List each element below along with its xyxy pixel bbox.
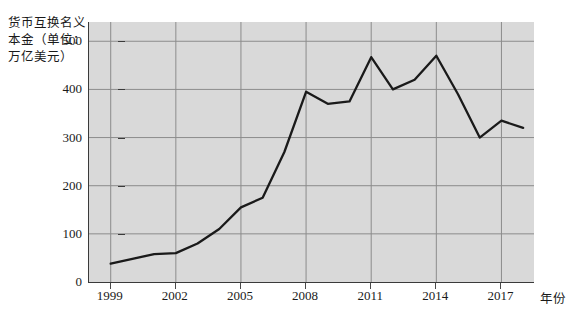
x-tick-label: 2017 [470,288,530,304]
x-tick-label: 2011 [340,288,400,304]
x-tick-label: 1999 [80,288,140,304]
x-tick-mark [240,283,241,289]
x-tick-label: 2005 [210,288,270,304]
x-tick-mark [175,283,176,289]
x-axis-label: 年份 [540,288,566,307]
x-tick-label: 2002 [145,288,205,304]
x-tick-mark [305,283,306,289]
x-tick-mark [500,283,501,289]
x-tick-mark [435,283,436,289]
x-tick-mark [110,283,111,289]
currency-swap-notional-line-chart: 货币互换名义本金（单位： 万亿美元） 0100200300400500 1999… [0,0,574,319]
x-tick-label: 2008 [275,288,335,304]
x-tick-mark [370,283,371,289]
x-tick-label: 2014 [405,288,465,304]
x-axis-ticks: 1999200220052008201120142017 [0,0,574,319]
